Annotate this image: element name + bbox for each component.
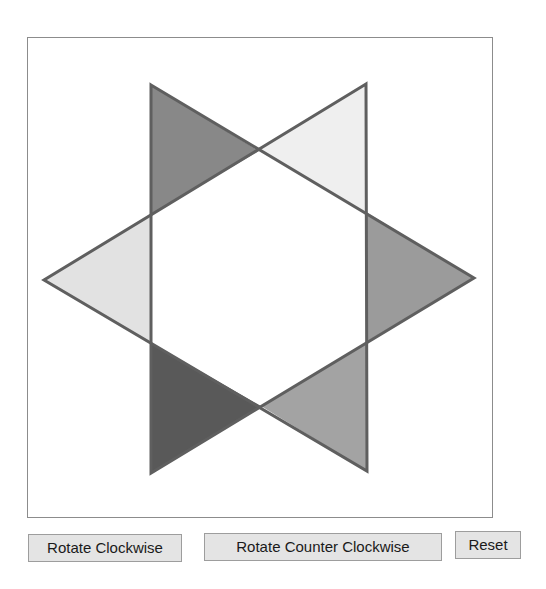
reset-button[interactable]: Reset [455, 531, 521, 559]
app-stage: Rotate Clockwise Rotate Counter Clockwis… [0, 0, 546, 589]
rotate-clockwise-button[interactable]: Rotate Clockwise [28, 534, 182, 562]
rotate-counter-clockwise-button[interactable]: Rotate Counter Clockwise [204, 533, 442, 561]
canvas-frame [27, 37, 493, 518]
controls-bar: Rotate Clockwise Rotate Counter Clockwis… [0, 533, 546, 563]
